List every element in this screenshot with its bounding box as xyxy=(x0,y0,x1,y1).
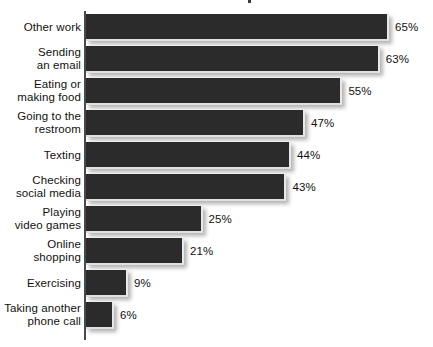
bar-going-to-the-restroom[interactable] xyxy=(86,110,305,137)
bar-wrapper: 21% xyxy=(86,237,213,265)
cropped-title-remnant xyxy=(248,0,251,3)
value-label: 44% xyxy=(297,149,320,162)
category-label: Going to the restroom xyxy=(0,110,81,136)
bar-row: Playing video games 25% xyxy=(0,205,433,233)
category-label: Texting xyxy=(0,149,81,162)
bar-sending-an-email[interactable] xyxy=(86,46,380,73)
category-label: Checking social media xyxy=(0,174,81,200)
bar-row: Checking social media 43% xyxy=(0,173,433,201)
bar-row: Sending an email 63% xyxy=(0,45,433,73)
bar-chart: Other work 65% Sending an email 63% Eati… xyxy=(0,0,433,347)
bar-wrapper: 44% xyxy=(86,141,320,169)
category-label: Playing video games xyxy=(0,206,81,232)
bar-wrapper: 63% xyxy=(86,45,409,73)
bar-taking-another-phone-call[interactable] xyxy=(86,302,114,329)
category-label: Eating or making food xyxy=(0,78,81,104)
bar-playing-video-games[interactable] xyxy=(86,206,203,233)
bar-wrapper: 55% xyxy=(86,77,372,105)
value-label: 63% xyxy=(386,53,409,66)
bar-row: Online shopping 21% xyxy=(0,237,433,265)
bar-wrapper: 25% xyxy=(86,205,232,233)
bar-eating-or-making-food[interactable] xyxy=(86,78,342,105)
bar-row: Taking another phone call 6% xyxy=(0,301,433,329)
bar-texting[interactable] xyxy=(86,142,291,169)
bar-wrapper: 6% xyxy=(86,301,137,329)
bar-wrapper: 47% xyxy=(86,109,334,137)
value-label: 55% xyxy=(348,85,371,98)
bar-row: Eating or making food 55% xyxy=(0,77,433,105)
bar-row: Exercising 9% xyxy=(0,269,433,297)
bar-wrapper: 43% xyxy=(86,173,316,201)
value-label: 9% xyxy=(134,277,151,290)
category-label: Exercising xyxy=(0,277,81,290)
value-label: 6% xyxy=(120,309,137,322)
bar-checking-social-media[interactable] xyxy=(86,174,286,201)
category-label: Taking another phone call xyxy=(0,302,81,328)
value-label: 65% xyxy=(395,21,418,34)
value-label: 43% xyxy=(292,181,315,194)
bar-online-shopping[interactable] xyxy=(86,238,184,265)
category-label: Online shopping xyxy=(0,238,81,264)
plot-area: Other work 65% Sending an email 63% Eati… xyxy=(0,13,433,343)
value-label: 25% xyxy=(209,213,232,226)
bar-exercising[interactable] xyxy=(86,270,128,297)
bar-row: Texting 44% xyxy=(0,141,433,169)
bar-wrapper: 65% xyxy=(86,13,418,41)
category-label: Other work xyxy=(0,21,81,34)
category-label: Sending an email xyxy=(0,46,81,72)
bar-wrapper: 9% xyxy=(86,269,151,297)
value-label: 21% xyxy=(190,245,213,258)
value-label: 47% xyxy=(311,117,334,130)
bar-other-work[interactable] xyxy=(86,14,389,41)
bar-row: Going to the restroom 47% xyxy=(0,109,433,137)
bar-row: Other work 65% xyxy=(0,13,433,41)
